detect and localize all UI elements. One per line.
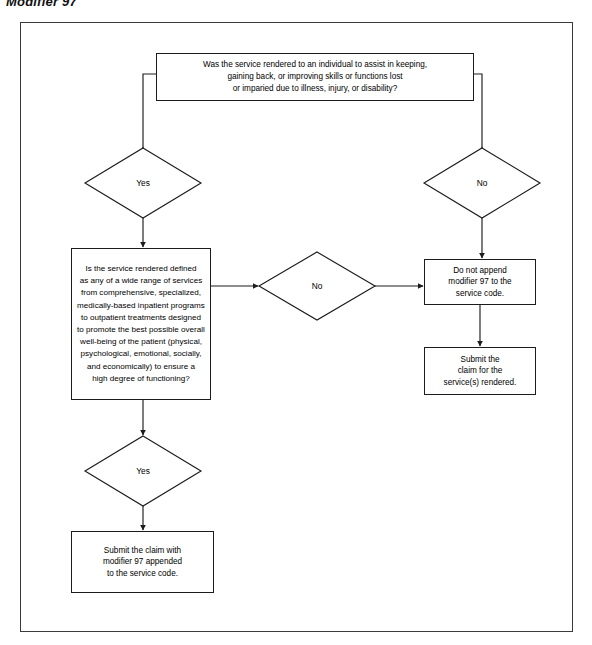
node-no-mid: No	[259, 252, 375, 320]
node-no-mid-label: No	[259, 281, 375, 291]
node-yes-bot: Yes	[85, 436, 201, 506]
node-do-not-append-text: Do not append modifier 97 to the service…	[448, 265, 511, 300]
node-question-top-text: Was the service rendered to an individua…	[203, 59, 427, 94]
node-big-question-text: Is the service rendered defined as any o…	[77, 263, 205, 385]
node-big-question: Is the service rendered defined as any o…	[71, 248, 211, 400]
node-no-top-label: No	[424, 178, 540, 188]
node-do-not-append: Do not append modifier 97 to the service…	[424, 259, 536, 305]
node-question-top: Was the service rendered to an individua…	[156, 53, 474, 101]
node-submit-modifier-text: Submit the claim with modifier 97 append…	[103, 545, 182, 580]
node-submit-plain-text: Submit the claim for the service(s) rend…	[444, 354, 517, 389]
node-yes-bot-label: Yes	[85, 466, 201, 476]
node-yes-top: Yes	[85, 148, 201, 218]
node-submit-modifier: Submit the claim with modifier 97 append…	[71, 531, 214, 593]
node-submit-plain: Submit the claim for the service(s) rend…	[424, 347, 536, 395]
node-yes-top-label: Yes	[85, 178, 201, 188]
node-no-top: No	[424, 148, 540, 218]
page-title: Modifier 97	[6, 0, 77, 9]
